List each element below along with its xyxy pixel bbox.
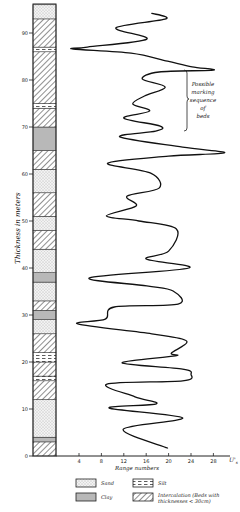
y-tick-label: 90 xyxy=(22,30,28,36)
y-tick-label: 70 xyxy=(22,124,28,130)
svg-text:Sand: Sand xyxy=(101,480,114,486)
svg-text:marking: marking xyxy=(191,89,215,96)
lithology-layer-clay xyxy=(33,273,56,282)
legend-item-intercalation: Intercalation (Beds with thicknesses < 3… xyxy=(133,492,219,504)
lithology-layer-intercalation xyxy=(33,301,56,310)
lithology-layer-silt xyxy=(33,47,56,52)
y-tick-label: 80 xyxy=(22,77,28,83)
lithology-layer-intercalation xyxy=(33,19,56,47)
legend-item-silt: Silt xyxy=(133,479,168,487)
range-number-curve xyxy=(71,13,225,448)
x-tick-label: 12 xyxy=(121,458,127,464)
lithology-layer-intercalation xyxy=(33,381,56,400)
lithology-layer-intercalation xyxy=(33,151,56,170)
lithology-layer-sand xyxy=(33,320,56,334)
y-tick-label: 60 xyxy=(22,171,28,177)
lithology-layer-sand xyxy=(33,169,56,193)
lithology-layer-intercalation xyxy=(33,230,56,249)
legend-item-clay: Clay xyxy=(76,493,112,501)
x-tick-label: 8 xyxy=(100,458,103,464)
x-axis-label: Range numbers xyxy=(114,465,159,472)
x-tick-label: 28 xyxy=(210,458,216,464)
lithology-layer-sand xyxy=(33,5,56,19)
y-tick-label: 20 xyxy=(22,359,28,365)
y-tick-label: 10 xyxy=(22,406,28,412)
y-axis-label: Thickness in meters xyxy=(14,192,22,264)
y-tick-label: 30 xyxy=(22,312,28,318)
lithology-layer-silt xyxy=(33,353,56,362)
x-axis-unit: U's xyxy=(229,456,238,465)
chart-figure: 0102030405060708090 Thickness in meters … xyxy=(0,0,240,512)
y-tick-label: 50 xyxy=(22,218,28,224)
lithology-layer-clay xyxy=(33,437,56,442)
lithology-layer-intercalation xyxy=(33,362,56,376)
x-tick-label: 20 xyxy=(165,458,171,464)
svg-text:of: of xyxy=(200,105,206,112)
lithology-layer-intercalation xyxy=(33,108,56,127)
svg-text:beds: beds xyxy=(196,113,209,119)
lithology-layer-sand xyxy=(33,249,56,273)
lithology-layer-intercalation xyxy=(33,334,56,353)
legend: Sand Silt Clay Intercalation (Beds with … xyxy=(76,479,219,504)
legend-item-sand: Sand xyxy=(76,479,114,487)
lithology-layer-clay xyxy=(33,127,56,151)
lithology-layer-intercalation xyxy=(33,193,56,217)
lithology-layer-clay xyxy=(33,310,56,319)
annotation-bracket xyxy=(184,70,189,131)
lithology-layer-sand xyxy=(33,400,56,438)
lithology-column xyxy=(33,5,56,456)
lithology-layer-intercalation xyxy=(33,52,56,104)
annotation-text: Possible marking sequence of beds xyxy=(190,81,217,119)
x-tick-label: 24 xyxy=(188,458,194,464)
y-tick-label: 0 xyxy=(25,453,28,459)
x-tick-label: 16 xyxy=(143,458,149,464)
lithology-layer-silt xyxy=(33,104,56,109)
lithology-layer-sand xyxy=(33,216,56,230)
svg-text:Possible: Possible xyxy=(191,81,215,87)
svg-text:sequence: sequence xyxy=(190,97,217,104)
x-tick-label: 4 xyxy=(77,458,80,464)
svg-text:thicknesses < 30cm): thicknesses < 30cm) xyxy=(158,498,211,504)
svg-text:Clay: Clay xyxy=(101,494,112,501)
lithology-layer-silt xyxy=(33,376,56,381)
y-axis-ticks: 0102030405060708090 xyxy=(22,30,33,459)
x-axis-ticks: 481216202428 xyxy=(77,453,216,464)
lithology-layer-intercalation xyxy=(33,442,56,456)
y-tick-label: 40 xyxy=(22,265,28,271)
svg-text:Silt: Silt xyxy=(158,480,168,486)
lithology-layer-sand xyxy=(33,282,56,301)
